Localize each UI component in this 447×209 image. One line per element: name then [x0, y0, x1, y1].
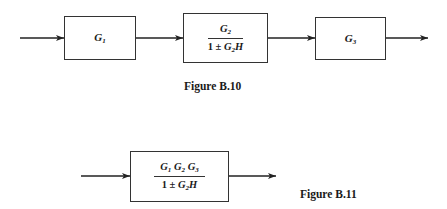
caption-figure-b11: Figure B.11 — [300, 188, 357, 200]
block-g2-closed-loop: G2 1 ± G2H — [183, 13, 268, 63]
g3-label: G3 — [345, 32, 356, 46]
caption-figure-b10: Figure B.10 — [184, 80, 241, 92]
block-g1: G1 — [64, 16, 136, 60]
combined-transfer-function: G1 G2 G3 1 ± G2H — [154, 161, 205, 192]
block-g3: G3 — [315, 17, 386, 60]
g1-label: G1 — [94, 31, 105, 45]
g2-transfer-function: G2 1 ± G2H — [208, 23, 244, 54]
block-combined: G1 G2 G3 1 ± G2H — [130, 151, 229, 202]
